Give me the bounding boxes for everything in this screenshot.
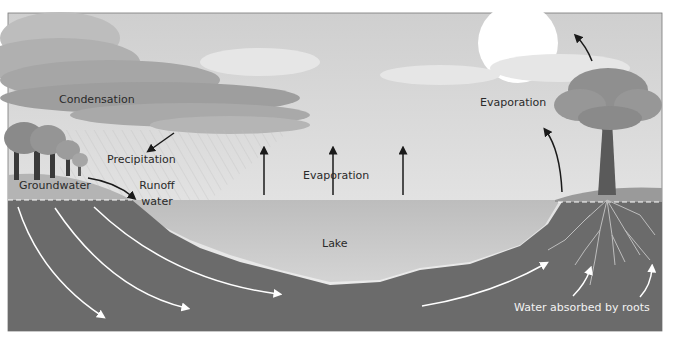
label-evaporation-lake: Evaporation [303, 170, 369, 182]
label-lake: Lake [322, 238, 348, 250]
label-precipitation: Precipitation [107, 154, 176, 166]
label-groundwater: Groundwater [19, 180, 91, 192]
label-evaporation-tree: Evaporation [480, 97, 546, 109]
label-runoff-line1: Runoff [134, 180, 180, 192]
label-condensation: Condensation [59, 94, 135, 106]
label-water-absorbed-by-roots: Water absorbed by roots [514, 302, 650, 314]
label-runoff-line2: water [134, 196, 180, 208]
label-runoff-water: Runoff water [134, 180, 180, 208]
